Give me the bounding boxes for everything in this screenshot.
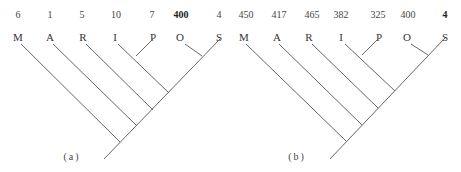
value-r: 5: [80, 9, 85, 20]
leaf-m: M: [13, 31, 23, 43]
leaf-a: A: [46, 31, 54, 43]
leaf-s: S: [442, 31, 448, 43]
value-i: 10: [111, 9, 121, 20]
value-m: 6: [16, 9, 21, 20]
tree-b: 450 417 465 382 325 400 4 M A R I P O S …: [239, 9, 449, 163]
branch-r: [86, 44, 153, 110]
branch-p: [136, 39, 153, 56]
value-s: 4: [443, 9, 448, 20]
value-r: 465: [305, 9, 320, 20]
tree-a: 6 1 5 10 7 400 4 M A R I P O S (a): [13, 9, 222, 163]
value-a: 1: [48, 9, 53, 20]
leaf-a: A: [273, 31, 281, 43]
cladogram-figure: 6 1 5 10 7 400 4 M A R I P O S (a) 450 4…: [0, 0, 461, 172]
leaf-r: R: [79, 31, 87, 43]
leaf-o: O: [403, 31, 411, 43]
branch-a: [53, 44, 137, 126]
caption-a: (a): [63, 151, 80, 163]
value-p: 7: [150, 9, 155, 20]
leaf-i: I: [339, 31, 343, 43]
value-i: 382: [334, 9, 349, 20]
value-m: 450: [239, 9, 254, 20]
leaf-p: P: [376, 31, 382, 43]
value-o: 400: [174, 9, 189, 20]
branch-i: [118, 44, 169, 93]
value-a: 417: [272, 9, 287, 20]
leaf-m: M: [239, 31, 249, 43]
backbone-branch: [104, 39, 220, 159]
leaf-i: I: [113, 31, 117, 43]
branch-m: [246, 44, 346, 141]
branch-p: [362, 38, 379, 55]
leaf-s: S: [216, 31, 222, 43]
branch-o: [185, 44, 202, 56]
leaf-r: R: [305, 31, 313, 43]
branch-a: [279, 44, 362, 125]
leaf-o: O: [176, 31, 184, 43]
branch-r: [312, 44, 378, 108]
value-o: 400: [401, 9, 416, 20]
branch-m: [21, 44, 120, 142]
value-s: 4: [217, 9, 222, 20]
value-p: 325: [371, 9, 386, 20]
branch-o: [411, 44, 428, 55]
backbone-branch: [330, 38, 445, 159]
caption-b: (b): [288, 151, 306, 163]
